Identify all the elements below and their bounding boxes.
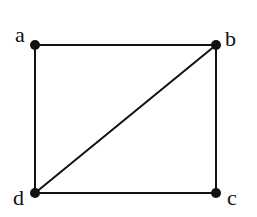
node-label-b: b: [225, 26, 236, 51]
node-label-d: d: [13, 185, 24, 210]
node-c: [211, 188, 221, 198]
edges: [35, 45, 216, 193]
node-d: [30, 188, 40, 198]
edge-d-b: [35, 45, 216, 193]
node-b: [211, 40, 221, 50]
node-label-a: a: [15, 22, 25, 47]
labels: a b c d: [13, 22, 237, 210]
node-label-c: c: [227, 185, 237, 210]
graph-diagram: a b c d: [0, 0, 257, 217]
node-a: [30, 40, 40, 50]
